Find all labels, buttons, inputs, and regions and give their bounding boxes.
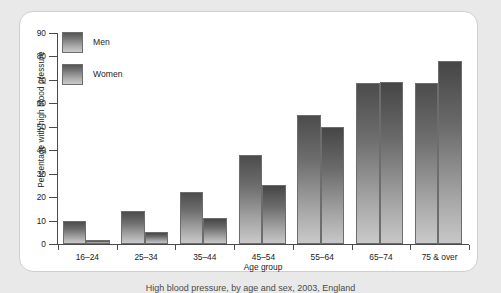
bar-men-5 <box>356 83 380 244</box>
legend-swatch-women <box>62 64 83 85</box>
plot-area <box>58 33 469 244</box>
y-axis-tick <box>49 127 57 128</box>
x-axis-title: Age group <box>57 262 469 272</box>
bar-men-6 <box>415 83 439 244</box>
y-axis-tick-label: 50 <box>20 121 46 131</box>
figure-caption: High blood pressure, by age and sex, 200… <box>0 283 501 293</box>
y-axis-tick <box>49 221 57 222</box>
x-axis-tick <box>117 245 118 250</box>
bar-women-5 <box>380 82 404 244</box>
y-axis-tick <box>49 80 57 81</box>
bar-men-3 <box>239 155 263 244</box>
bar-women-2 <box>203 218 227 244</box>
y-axis-tick <box>49 197 57 198</box>
y-axis-tick <box>49 150 57 151</box>
y-axis-tick-label: 30 <box>20 168 46 178</box>
x-axis-line <box>57 244 469 245</box>
bar-chart: Percentage with high blood pressure 0102… <box>20 12 479 273</box>
bar-women-0 <box>86 240 110 244</box>
y-axis-tick-label: 0 <box>20 239 46 249</box>
legend-label: Women <box>93 69 122 79</box>
bar-women-6 <box>438 61 462 244</box>
y-axis-tick <box>49 174 57 175</box>
bar-men-0 <box>63 221 87 244</box>
x-axis-tick <box>58 245 59 250</box>
x-axis-tick-label: 75 & over <box>405 252 475 262</box>
y-axis-tick-label: 60 <box>20 98 46 108</box>
x-axis-tick <box>234 245 235 250</box>
y-axis-tick <box>49 244 57 245</box>
y-axis-tick-label: 80 <box>20 51 46 61</box>
y-axis-tick-label: 10 <box>20 215 46 225</box>
bar-women-4 <box>321 127 345 244</box>
legend-label: Men <box>93 37 110 47</box>
bar-women-3 <box>262 185 286 244</box>
x-axis-tick <box>293 245 294 250</box>
y-axis-tick <box>49 33 57 34</box>
figure-panel: Percentage with high blood pressure 0102… <box>19 11 478 272</box>
bar-men-2 <box>180 192 204 244</box>
y-axis-tick <box>49 103 57 104</box>
y-axis-tick <box>49 56 57 57</box>
x-axis-tick <box>352 245 353 250</box>
x-axis-tick <box>410 245 411 250</box>
y-axis-tick-label: 70 <box>20 74 46 84</box>
x-axis-tick <box>469 245 470 250</box>
x-axis-tick <box>175 245 176 250</box>
bar-men-1 <box>121 211 145 244</box>
y-axis-tick-label: 40 <box>20 145 46 155</box>
y-axis-tick-label: 90 <box>20 28 46 38</box>
y-axis-tick-label: 20 <box>20 192 46 202</box>
legend-swatch-men <box>62 32 83 53</box>
bar-women-1 <box>145 232 169 244</box>
bar-men-4 <box>297 115 321 244</box>
y-axis-title: Percentage with high blood pressure <box>37 20 46 220</box>
